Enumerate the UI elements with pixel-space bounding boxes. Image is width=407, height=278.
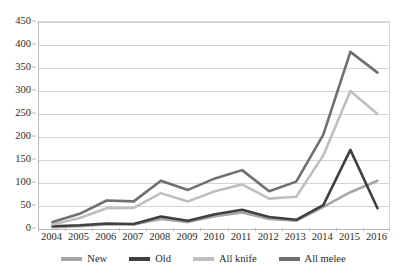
series-lines [39, 22, 391, 229]
y-tick-mark-50 [32, 205, 36, 206]
x-tick-mark-3 [119, 228, 120, 231]
y-tick-mark-150 [32, 159, 36, 160]
legend-swatch-icon [129, 257, 150, 261]
x-tick-mark-10 [309, 228, 310, 231]
y-tick-mark-100 [32, 182, 36, 183]
x-tick-mark-end [389, 228, 390, 231]
x-tick-mark-5 [173, 228, 174, 231]
series-line-old [53, 150, 378, 226]
legend-item-all-knife[interactable]: All knife [193, 254, 257, 265]
legend-swatch-icon [61, 257, 82, 261]
plot-area [38, 21, 390, 228]
x-tick-mark-2 [92, 228, 93, 231]
x-tick-label-2006: 2006 [95, 232, 116, 243]
x-tick-mark-9 [282, 228, 283, 231]
x-tick-mark-0 [38, 228, 39, 231]
y-tick-mark-450 [32, 21, 36, 22]
y-tick-mark-250 [32, 113, 36, 114]
x-tick-label-2008: 2008 [149, 232, 170, 243]
legend-label: New [87, 254, 107, 265]
x-tick-mark-4 [146, 228, 147, 231]
chart-legend: NewOldAll knifeAll melee [0, 250, 407, 268]
y-tick-label-0: 0 [26, 223, 31, 234]
y-tick-label-400: 400 [15, 39, 31, 50]
y-tick-mark-350 [32, 67, 36, 68]
x-tick-label-2007: 2007 [122, 232, 143, 243]
legend-item-old[interactable]: Old [129, 254, 171, 265]
x-tick-label-2009: 2009 [176, 232, 197, 243]
y-tick-label-350: 350 [15, 62, 31, 73]
x-axis: 2004200520062007200820092010201120122013… [38, 230, 390, 246]
x-tick-mark-11 [336, 228, 337, 231]
y-tick-label-450: 450 [15, 16, 31, 27]
y-tick-mark-200 [32, 136, 36, 137]
legend-swatch-icon [193, 257, 214, 261]
y-tick-label-200: 200 [15, 131, 31, 142]
x-tick-label-2004: 2004 [41, 232, 62, 243]
x-tick-label-2012: 2012 [258, 232, 279, 243]
x-tick-label-2014: 2014 [312, 232, 333, 243]
legend-label: All melee [305, 254, 346, 265]
y-tick-label-300: 300 [15, 85, 31, 96]
x-tick-mark-6 [200, 228, 201, 231]
y-tick-mark-0 [32, 228, 36, 229]
x-tick-mark-8 [255, 228, 256, 231]
legend-label: Old [155, 254, 171, 265]
y-tick-label-50: 50 [21, 200, 32, 211]
x-tick-label-2013: 2013 [285, 232, 306, 243]
y-tick-mark-300 [32, 90, 36, 91]
x-tick-label-2011: 2011 [231, 232, 252, 243]
x-tick-mark-1 [65, 228, 66, 231]
x-tick-mark-12 [363, 228, 364, 231]
legend-item-new[interactable]: New [61, 254, 107, 265]
x-tick-mark-7 [228, 228, 229, 231]
x-tick-label-2015: 2015 [339, 232, 360, 243]
legend-item-all-melee[interactable]: All melee [279, 254, 346, 265]
x-tick-label-2016: 2016 [366, 232, 387, 243]
y-tick-label-100: 100 [15, 177, 31, 188]
y-tick-mark-400 [32, 44, 36, 45]
x-tick-label-2005: 2005 [68, 232, 89, 243]
x-tick-label-2010: 2010 [204, 232, 225, 243]
y-tick-label-150: 150 [15, 154, 31, 165]
y-tick-label-250: 250 [15, 108, 31, 119]
legend-swatch-icon [279, 257, 300, 261]
legend-label: All knife [219, 254, 257, 265]
y-axis: 050100150200250300350400450 [0, 0, 36, 249]
line-chart: 050100150200250300350400450 200420052006… [0, 0, 407, 278]
